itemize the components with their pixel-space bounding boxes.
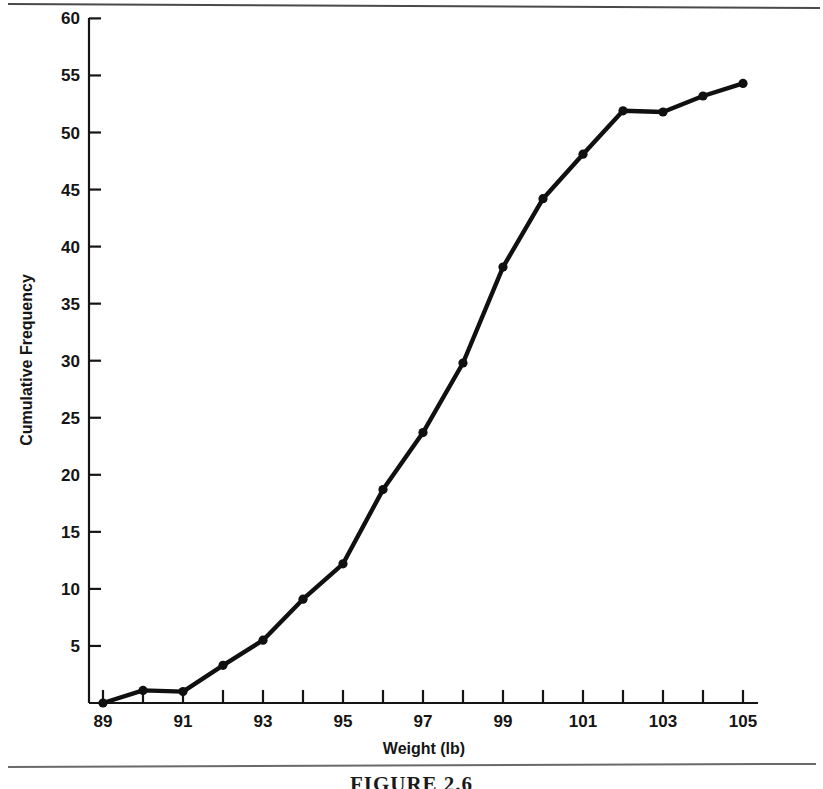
- data-point-marker: [138, 686, 147, 695]
- x-axis-tick-labels: 899193959799101103105: [94, 712, 758, 731]
- y-tick-label-15: 15: [61, 523, 80, 542]
- x-tick-label-93: 93: [254, 712, 273, 731]
- y-tick-label-60: 60: [61, 9, 80, 28]
- y-tick-label-30: 30: [61, 352, 80, 371]
- data-point-marker: [418, 428, 427, 437]
- data-point-marker: [738, 79, 747, 88]
- data-point-marker: [98, 698, 107, 707]
- x-tick-label-89: 89: [94, 712, 113, 731]
- x-tick-label-101: 101: [569, 712, 597, 731]
- data-point-marker: [218, 661, 227, 670]
- figure-caption: FIGURE 2.6: [0, 772, 823, 789]
- data-point-marker: [378, 485, 387, 494]
- y-tick-label-45: 45: [61, 181, 80, 200]
- data-point-marker: [178, 687, 187, 696]
- data-point-marker: [698, 91, 707, 100]
- y-tick-label-10: 10: [61, 580, 80, 599]
- y-tick-label-40: 40: [61, 238, 80, 257]
- figure-page: 51015202530354045505560 8991939597991011…: [0, 0, 823, 789]
- data-point-marker: [658, 107, 667, 116]
- x-tick-label-97: 97: [414, 712, 433, 731]
- data-point-marker: [298, 595, 307, 604]
- x-tick-label-95: 95: [334, 712, 353, 731]
- x-tick-label-99: 99: [494, 712, 513, 731]
- x-tick-label-91: 91: [174, 712, 193, 731]
- x-tick-label-105: 105: [729, 712, 757, 731]
- x-axis-title: Weight (lb): [383, 740, 465, 757]
- y-tick-label-20: 20: [61, 466, 80, 485]
- y-tick-label-35: 35: [61, 295, 80, 314]
- y-tick-label-25: 25: [61, 409, 80, 428]
- data-point-marker: [618, 106, 627, 115]
- chart-axes: [89, 18, 758, 703]
- data-point-marker: [258, 636, 267, 645]
- data-point-marker: [578, 150, 587, 159]
- data-point-marker: [458, 358, 467, 367]
- y-axis-ticks: [89, 18, 101, 646]
- x-tick-label-103: 103: [649, 712, 677, 731]
- data-point-marker: [538, 194, 547, 203]
- data-point-markers: [98, 79, 747, 708]
- y-tick-label-50: 50: [61, 124, 80, 143]
- y-tick-label-5: 5: [71, 637, 80, 656]
- data-series-line: [103, 83, 743, 703]
- x-axis-ticks: [103, 690, 743, 703]
- y-axis-tick-labels: 51015202530354045505560: [61, 9, 80, 656]
- y-axis-title: Cumulative Frequency: [18, 274, 35, 446]
- data-point-marker: [338, 559, 347, 568]
- cumulative-frequency-chart: 51015202530354045505560 8991939597991011…: [0, 0, 823, 770]
- data-point-marker: [498, 263, 507, 272]
- y-tick-label-55: 55: [61, 66, 80, 85]
